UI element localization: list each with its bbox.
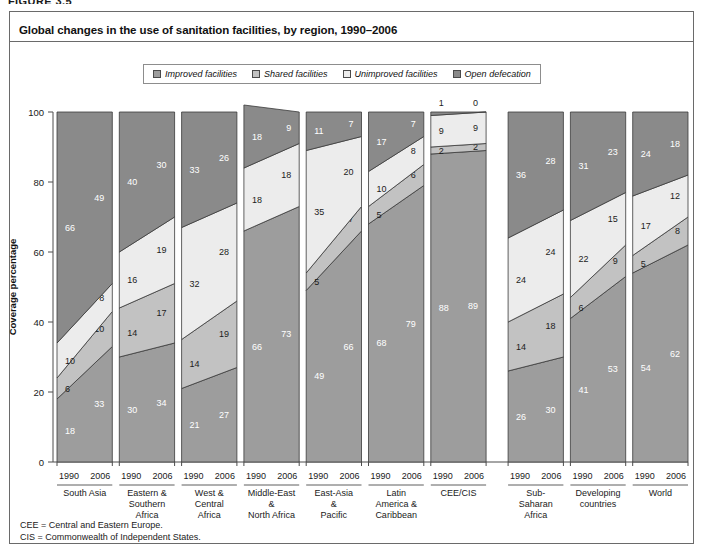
value-label: 53 bbox=[608, 364, 618, 374]
value-label: 14 bbox=[516, 342, 526, 352]
x-tick-year: 1990 bbox=[184, 471, 204, 481]
x-tick-year: 2006 bbox=[402, 471, 422, 481]
x-tick-year: 1990 bbox=[308, 471, 328, 481]
x-group-label: Developing bbox=[576, 488, 621, 498]
x-group-label: Africa bbox=[524, 510, 547, 520]
value-label: 11 bbox=[314, 126, 323, 136]
value-label: 1 bbox=[439, 98, 444, 108]
value-label: 7 bbox=[348, 119, 353, 129]
value-label: 27 bbox=[219, 410, 229, 420]
value-label: 18 bbox=[281, 170, 291, 180]
x-group-label: Southern bbox=[129, 499, 166, 509]
value-label: 26 bbox=[219, 153, 229, 163]
value-label: 2 bbox=[439, 146, 444, 156]
x-group-label: Middle-East bbox=[248, 488, 296, 498]
value-label: 49 bbox=[94, 193, 104, 203]
x-tick-year: 1990 bbox=[371, 471, 391, 481]
value-label: 19 bbox=[157, 245, 167, 255]
value-label: 24 bbox=[545, 247, 555, 257]
footnote-line: CIS = Commonwealth of Independent States… bbox=[20, 531, 201, 543]
y-tick-label: 100 bbox=[28, 107, 44, 118]
group-panel: 2630141824243628 bbox=[508, 112, 563, 462]
x-group-label: North Africa bbox=[248, 510, 295, 520]
x-group-label: & bbox=[331, 499, 337, 509]
value-label: 26 bbox=[516, 412, 526, 422]
value-label: 36 bbox=[516, 170, 526, 180]
value-label: 6 bbox=[578, 303, 583, 313]
value-label: 8 bbox=[411, 146, 416, 156]
value-label: 14 bbox=[127, 328, 137, 338]
x-group-label: Africa bbox=[198, 510, 221, 520]
y-tick-label: 40 bbox=[33, 317, 44, 328]
value-label: 62 bbox=[670, 349, 680, 359]
value-label: 19 bbox=[219, 329, 229, 339]
y-axis-label: Coverage percentage bbox=[7, 239, 18, 336]
x-group-label: Sub- bbox=[526, 488, 545, 498]
value-label: 10 bbox=[377, 184, 387, 194]
x-group-label: countries bbox=[580, 499, 617, 509]
x-group-label: Pacific bbox=[321, 510, 348, 520]
value-label: 8 bbox=[675, 226, 680, 236]
value-label: 40 bbox=[127, 177, 137, 187]
value-label: 54 bbox=[641, 363, 651, 373]
group-panel: 2127141932283326 bbox=[182, 112, 237, 462]
value-label: 30 bbox=[545, 405, 555, 415]
group-panel: 41536922153123 bbox=[570, 112, 625, 462]
x-tick-year: 2006 bbox=[90, 471, 110, 481]
group-panel: 3034141716194030 bbox=[119, 112, 174, 462]
group-panel: 66731818189 bbox=[244, 105, 299, 462]
x-tick-year: 2006 bbox=[541, 471, 561, 481]
x-tick-year: 1990 bbox=[510, 471, 530, 481]
footnotes: CEE = Central and Eastern Europe.CIS = C… bbox=[20, 519, 201, 543]
value-label: 28 bbox=[545, 156, 555, 166]
value-label: 5 bbox=[641, 259, 646, 269]
x-tick-year: 2006 bbox=[604, 471, 624, 481]
y-tick-label: 0 bbox=[39, 457, 44, 468]
x-group-label: World bbox=[649, 488, 672, 498]
value-label: 9 bbox=[613, 256, 618, 266]
value-label: 30 bbox=[127, 405, 137, 415]
x-group-label: & bbox=[269, 499, 275, 509]
x-group-label: CEE/CIS bbox=[440, 488, 476, 498]
figure-page: FIGURE 3.5 Global changes in the use of … bbox=[0, 0, 703, 554]
value-label: 17 bbox=[157, 308, 167, 318]
x-tick-year: 2006 bbox=[153, 471, 173, 481]
value-label: 18 bbox=[545, 321, 555, 331]
value-label: 14 bbox=[190, 359, 200, 369]
value-label: 18 bbox=[252, 132, 262, 142]
footnote-line: CEE = Central and Eastern Europe. bbox=[20, 519, 201, 531]
value-label: 15 bbox=[608, 214, 618, 224]
value-label: 88 bbox=[439, 303, 449, 313]
x-group-label: East-Asia bbox=[315, 488, 354, 498]
value-label: 30 bbox=[157, 160, 167, 170]
x-tick-year: 2006 bbox=[464, 471, 484, 481]
value-label: 18 bbox=[252, 195, 262, 205]
chart-svg: 020406080100Coverage percentage183361010… bbox=[0, 0, 703, 554]
value-label: 7 bbox=[411, 119, 416, 129]
value-label: 73 bbox=[281, 329, 291, 339]
y-tick-label: 20 bbox=[33, 387, 44, 398]
value-label: 6 bbox=[65, 384, 70, 394]
x-group-label: Latin bbox=[386, 488, 406, 498]
x-group-label: America & bbox=[375, 499, 417, 509]
x-tick-year: 1990 bbox=[246, 471, 266, 481]
value-label: 17 bbox=[641, 221, 651, 231]
group-panel: 4966573520117 bbox=[306, 112, 361, 462]
value-label: 33 bbox=[94, 399, 104, 409]
value-label: 66 bbox=[343, 342, 353, 352]
value-label: 5 bbox=[314, 277, 319, 287]
plot-area: 020406080100Coverage percentage183361010… bbox=[0, 0, 703, 554]
value-label: 17 bbox=[377, 137, 387, 147]
value-label: 23 bbox=[608, 147, 618, 157]
group-panel: 8889229910 bbox=[431, 98, 486, 462]
value-label: 31 bbox=[578, 161, 588, 171]
x-group-label: Central bbox=[195, 499, 224, 509]
value-label: 49 bbox=[314, 371, 324, 381]
value-label: 22 bbox=[578, 254, 588, 264]
y-tick-label: 80 bbox=[33, 177, 44, 188]
value-label: 24 bbox=[516, 275, 526, 285]
value-label: 79 bbox=[406, 319, 416, 329]
value-label: 41 bbox=[578, 385, 588, 395]
x-tick-year: 2006 bbox=[339, 471, 359, 481]
x-group-label: West & bbox=[195, 488, 224, 498]
